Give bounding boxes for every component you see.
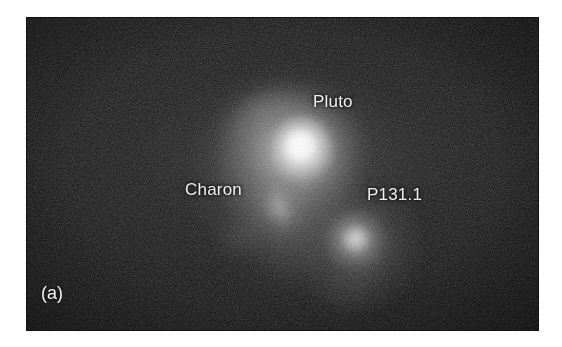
detector-background xyxy=(27,18,538,330)
figure-root: Pluto Charon P131.1 (a) xyxy=(0,0,562,347)
label-charon: Charon xyxy=(185,180,242,200)
label-pluto: Pluto xyxy=(313,92,353,112)
label-p131: P131.1 xyxy=(367,185,422,205)
panel-label: (a) xyxy=(41,283,63,304)
astronomical-image-plate: Pluto Charon P131.1 (a) xyxy=(27,18,538,330)
